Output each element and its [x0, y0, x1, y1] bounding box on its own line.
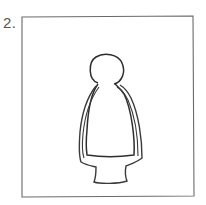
outer-outline-left [79, 85, 142, 183]
sketch-figure [0, 0, 206, 205]
square-frame [22, 16, 194, 197]
head-circle [90, 54, 123, 84]
outer-outline-double [82, 87, 138, 158]
